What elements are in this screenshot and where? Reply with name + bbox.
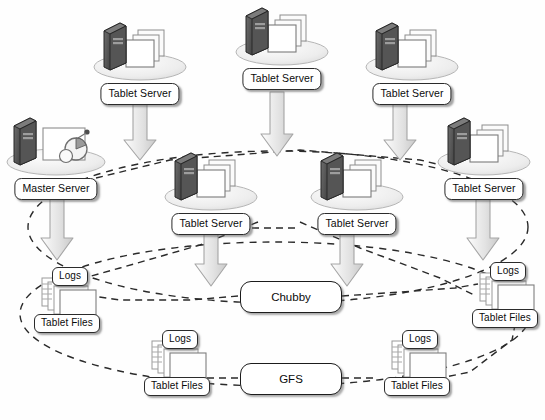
tablet-files-1-label: Tablet Files bbox=[34, 314, 100, 333]
tablet-server-icon bbox=[228, 2, 336, 68]
service-box-chubby[interactable]: Chubby bbox=[240, 281, 342, 313]
diagram-canvas: Tablet Server Tablet Server bbox=[0, 0, 545, 420]
master-server-icon bbox=[0, 112, 112, 178]
flow-arrow-ts1-down bbox=[124, 104, 156, 160]
master-server-label: Master Server bbox=[14, 178, 97, 200]
tablet-files-3-label: Tablet Files bbox=[384, 377, 450, 396]
tablet-server-3-label: Tablet Server bbox=[372, 83, 451, 105]
tablet-files-1-logs-label: Logs bbox=[52, 267, 88, 286]
flow-arrow-ts5-down bbox=[331, 232, 363, 286]
tablet-server-2-label: Tablet Server bbox=[242, 68, 321, 90]
tablet-files-2-logs-label: Logs bbox=[162, 330, 198, 349]
gfs-label: GFS bbox=[279, 373, 303, 385]
tablet-server-6-label: Tablet Server bbox=[444, 178, 523, 200]
tablet-server-icon bbox=[157, 147, 265, 213]
chubby-label: Chubby bbox=[271, 291, 311, 303]
tablet-server-4-label: Tablet Server bbox=[171, 213, 250, 235]
tablet-server-5-label: Tablet Server bbox=[317, 213, 396, 235]
tablet-server-icon bbox=[430, 112, 538, 178]
flow-arrow-master-down bbox=[41, 198, 73, 260]
tablet-server-icon bbox=[86, 17, 194, 83]
flow-arrow-ts2-down bbox=[261, 92, 293, 156]
tablet-server-1-label: Tablet Server bbox=[100, 83, 179, 105]
service-box-gfs[interactable]: GFS bbox=[240, 363, 342, 395]
tablet-server-icon bbox=[303, 147, 411, 213]
tablet-server-icon bbox=[358, 17, 466, 83]
tablet-files-3-logs-label: Logs bbox=[402, 330, 438, 349]
tablet-files-4-label: Tablet Files bbox=[472, 309, 538, 328]
flow-arrow-ts4-down bbox=[195, 232, 227, 286]
flow-arrow-ts6-down bbox=[467, 198, 499, 260]
tablet-files-2-label: Tablet Files bbox=[144, 377, 210, 396]
link-master-to-tablet-servers bbox=[96, 150, 470, 178]
tablet-files-4-logs-label: Logs bbox=[490, 262, 526, 281]
link-chubby-to-tablet-files-right bbox=[342, 284, 478, 296]
